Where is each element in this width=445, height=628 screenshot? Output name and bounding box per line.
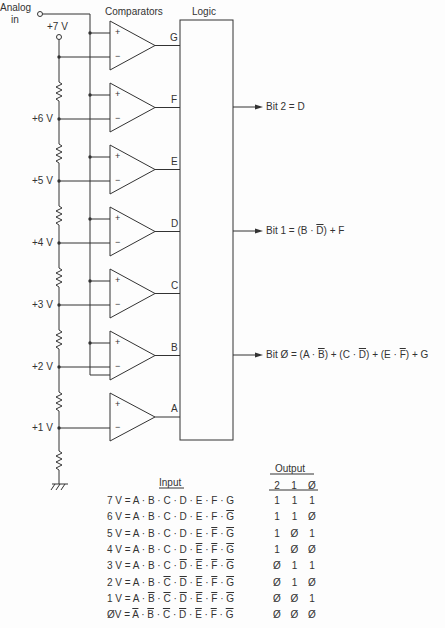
plus-sign: + <box>115 214 120 223</box>
resistor-ladder <box>56 78 62 484</box>
ref-voltage-5v: +5 V <box>32 176 53 186</box>
ref-voltage-1v: +1 V <box>32 423 53 433</box>
comparators-title: Comparators <box>105 7 163 17</box>
output-cell: 1 <box>288 561 302 571</box>
output-cell: Ø <box>288 529 302 539</box>
ref-voltage-4v: +4 V <box>32 238 53 248</box>
output-label-F: F <box>171 95 177 105</box>
truth-table-row: ØV = A · B · C · D · E · F · G <box>107 610 233 620</box>
output-cell: 1 <box>305 529 319 539</box>
truth-table-row: 5 V = A · B · C · D · E · F · G <box>107 529 234 539</box>
truth-table-row: 7 V = A · B · C · D · E · F · G <box>107 496 234 506</box>
logic-block <box>180 20 233 440</box>
input-header: Input <box>159 478 181 488</box>
output-label-B: B <box>171 343 178 353</box>
ref-7v-terminal <box>57 35 62 40</box>
output-cell: 1 <box>288 496 302 506</box>
logic-title: Logic <box>192 7 216 17</box>
output-col-0: Ø <box>305 481 319 491</box>
truth-table-row: 3 V = A · B · C · D · E · F · G <box>107 561 234 571</box>
output-cell: Ø <box>288 545 302 555</box>
output-cell: 1 <box>305 594 319 604</box>
plus-sign: + <box>115 152 120 161</box>
output-cell: 1 <box>305 496 319 506</box>
minus-sign: − <box>115 52 120 61</box>
output-cell: 1 <box>270 529 284 539</box>
truth-table-row: 6 V = A · B · C · D · E · F · G <box>107 512 234 522</box>
minus-sign: − <box>115 423 120 432</box>
ref-voltage-2v: +2 V <box>32 362 53 372</box>
analog-in-terminal <box>38 12 43 17</box>
minus-sign: − <box>115 176 120 185</box>
minus-sign: − <box>115 300 120 309</box>
plus-sign: + <box>115 400 120 409</box>
truth-table-row: 2 V = A · B · C · D · E · F · G <box>107 578 234 588</box>
plus-sign: + <box>115 338 120 347</box>
output-label-A: A <box>171 404 178 414</box>
arrow-bit2-icon <box>255 105 263 110</box>
analog-in-label: Analog <box>0 3 31 13</box>
bit1-equation: Bit 1 = (B · D) + F <box>266 226 344 236</box>
ref-voltage-3v: +3 V <box>32 300 53 310</box>
output-cell: Ø <box>270 610 284 620</box>
output-label-G: G <box>170 33 178 43</box>
plus-sign: + <box>115 90 120 99</box>
output-cell: Ø <box>305 578 319 588</box>
output-cell: Ø <box>270 561 284 571</box>
analog-in-label-2: in <box>11 15 19 25</box>
output-cell: Ø <box>288 610 302 620</box>
output-col-2: 2 <box>270 481 284 491</box>
analog-in-bus <box>43 14 111 375</box>
bit2-equation: Bit 2 = D <box>266 102 305 112</box>
output-cell: Ø <box>270 594 284 604</box>
arrow-bit1-icon <box>255 229 263 234</box>
output-label-E: E <box>171 157 178 167</box>
output-col-1: 1 <box>287 481 301 491</box>
ref-voltage-7v: +7 V <box>47 22 68 32</box>
minus-sign: − <box>115 238 120 247</box>
output-cell: 1 <box>270 545 284 555</box>
output-cell: 1 <box>288 512 302 522</box>
output-cell: 1 <box>270 512 284 522</box>
output-label-D: D <box>171 219 178 229</box>
output-cell: 1 <box>305 561 319 571</box>
output-cell: Ø <box>288 594 302 604</box>
output-header: Output <box>275 464 305 474</box>
ref-voltage-6v: +6 V <box>32 114 53 124</box>
output-cell: 1 <box>270 496 284 506</box>
truth-table-row: 4 V = A · B · C · D · E · F · G <box>107 545 234 555</box>
output-label-C: C <box>171 281 178 291</box>
arrow-bit0-icon <box>255 353 263 358</box>
plus-sign: + <box>115 276 120 285</box>
plus-sign: + <box>115 28 120 37</box>
output-cell: 1 <box>288 578 302 588</box>
minus-sign: − <box>115 114 120 123</box>
output-cell: Ø <box>305 545 319 555</box>
output-cell: Ø <box>305 610 319 620</box>
bit0-equation: Bit Ø = (A · B) + (C · D) + (E · F) + G <box>266 350 428 360</box>
minus-sign: − <box>115 362 120 371</box>
output-cell: Ø <box>305 512 319 522</box>
output-cell: Ø <box>270 578 284 588</box>
truth-table-row: 1 V = A · B · C · D · E · F · G <box>107 594 234 604</box>
ground-symbol <box>51 484 68 490</box>
